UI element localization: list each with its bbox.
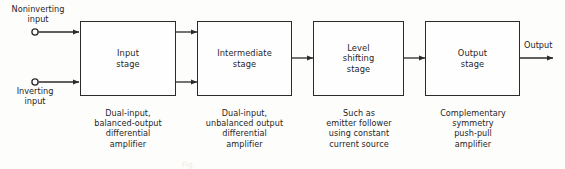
stage-box-output-stage[interactable]: Output stage — [425, 21, 520, 96]
stage-label-intermediate-stage: Intermediate stage — [217, 48, 272, 69]
stage-box-input-stage[interactable]: Input stage — [80, 21, 176, 96]
inverting-input-label: Inverting input — [2, 86, 68, 107]
stage-caption-input-stage: Dual-input, balanced-output differential… — [72, 108, 184, 149]
stage-label-output-stage: Output stage — [458, 48, 487, 69]
stage-box-level-shifting-stage[interactable]: Level shifting stage — [313, 21, 404, 96]
stage-label-level-shifting-stage: Level shifting stage — [343, 43, 375, 75]
inverting-input-terminal — [32, 79, 38, 85]
stage-caption-intermediate-stage: Dual-input, unbalanced output differenti… — [188, 108, 301, 149]
stage-label-input-stage: Input stage — [116, 48, 140, 69]
stage-caption-output-stage: Complementary symmetry push-pull amplifi… — [418, 108, 528, 149]
figure-note: Fig. — [182, 161, 196, 169]
block-diagram: Noninverting input Inverting input Outpu… — [0, 0, 565, 169]
stage-caption-level-shifting-stage: Such as emitter follower using constant … — [304, 108, 414, 149]
noninverting-input-label: Noninverting input — [2, 4, 74, 25]
noninverting-input-terminal — [32, 29, 38, 35]
output-label: Output — [524, 40, 552, 50]
stage-box-intermediate-stage[interactable]: Intermediate stage — [197, 21, 292, 96]
